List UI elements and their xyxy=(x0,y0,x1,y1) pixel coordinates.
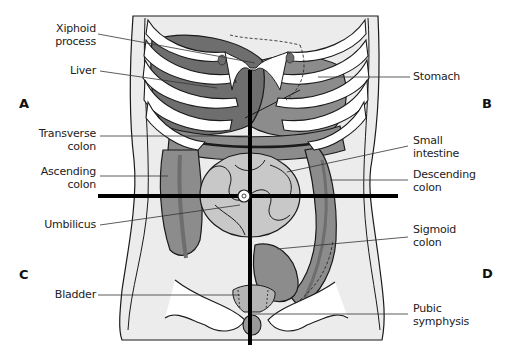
label-line: Stomach xyxy=(413,70,460,83)
label-line: process xyxy=(40,35,96,48)
label-descending-colon: Descending colon xyxy=(413,168,476,194)
label-line: Small xyxy=(413,134,459,147)
label-stomach: Stomach xyxy=(413,70,460,83)
label-line: Umbilicus xyxy=(20,218,96,231)
label-line: Xiphoid xyxy=(40,22,96,35)
label-line: colon xyxy=(20,140,96,153)
quadrant-d-label: D xyxy=(482,266,493,281)
label-liver: Liver xyxy=(40,64,96,77)
label-line: Sigmoid xyxy=(413,223,456,236)
label-line: Ascending xyxy=(20,165,96,178)
label-pubic-symphysis: Pubic symphysis xyxy=(413,302,469,328)
label-line: colon xyxy=(413,181,476,194)
label-line: colon xyxy=(413,236,456,249)
quadrant-b-label: B xyxy=(482,96,492,111)
quadrant-c-label: C xyxy=(19,267,29,282)
label-line: colon xyxy=(20,178,96,191)
quadrant-a-label: A xyxy=(19,96,29,111)
label-line: symphysis xyxy=(413,315,469,328)
label-transverse-colon: Transverse colon xyxy=(20,127,96,153)
label-line: Bladder xyxy=(20,288,96,301)
label-xiphoid-process: Xiphoid process xyxy=(40,22,96,48)
label-small-intestine: Small intestine xyxy=(413,134,459,160)
label-line: Transverse xyxy=(20,127,96,140)
label-sigmoid-colon: Sigmoid colon xyxy=(413,223,456,249)
label-line: intestine xyxy=(413,147,459,160)
label-bladder: Bladder xyxy=(20,288,96,301)
label-line: Descending xyxy=(413,168,476,181)
label-ascending-colon: Ascending colon xyxy=(20,165,96,191)
label-umbilicus: Umbilicus xyxy=(20,218,96,231)
label-line: Pubic xyxy=(413,302,469,315)
label-line: Liver xyxy=(40,64,96,77)
umbilicus xyxy=(238,190,250,202)
